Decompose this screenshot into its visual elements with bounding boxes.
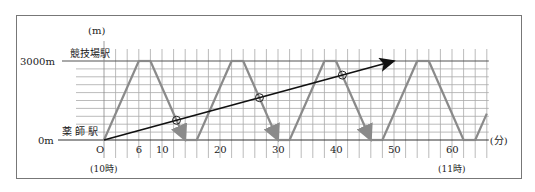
x-tick-label: 20: [214, 144, 227, 155]
time-11-label: (11時): [438, 164, 465, 174]
x-tick-label: 30: [272, 144, 285, 155]
y-tick-0: 0m: [38, 135, 54, 146]
train-walker-graph: (m)3000m競技場駅0m薬 師 駅O6102030405060(分)(10時…: [0, 0, 535, 192]
x-tick-label: 40: [330, 144, 343, 155]
station-bottom-label: 薬 師 駅: [62, 125, 98, 137]
x-tick-label: 10: [156, 144, 169, 155]
station-top-label: 競技場駅: [70, 47, 110, 59]
x-unit-label: (分): [490, 135, 508, 146]
time-10-label: (10時): [90, 164, 117, 174]
train-segment: [475, 114, 487, 140]
x-tick-label: 60: [446, 144, 459, 155]
x-tick-label: 50: [388, 144, 401, 155]
y-unit-label: (m): [88, 25, 105, 36]
x-tick-label: O: [96, 144, 104, 155]
y-tick-3000: 3000m: [20, 56, 55, 67]
x-tick-label: 6: [136, 144, 142, 155]
